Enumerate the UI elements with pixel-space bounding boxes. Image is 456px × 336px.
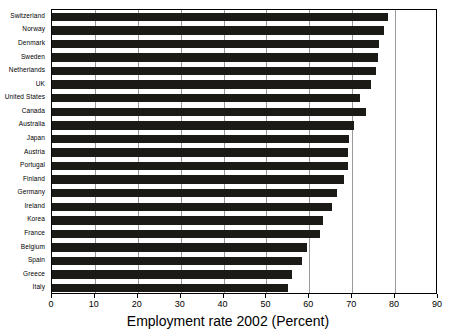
bar-greece — [52, 270, 292, 278]
xtick-label-90: 90 — [422, 299, 452, 310]
bar-row — [52, 67, 436, 75]
bar-row — [52, 94, 436, 102]
category-label-greece: Greece — [23, 270, 45, 278]
xtick-label-50: 50 — [250, 299, 280, 310]
xtick-mark-90 — [437, 294, 438, 298]
bar-denmark — [52, 40, 379, 48]
xtick-label-30: 30 — [165, 299, 195, 310]
bar-united-states — [52, 94, 360, 102]
bar-finland — [52, 175, 344, 183]
bar-australia — [52, 121, 354, 129]
category-label-denmark: Denmark — [18, 39, 45, 47]
xtick-label-40: 40 — [208, 299, 238, 310]
category-label-france: France — [24, 229, 45, 237]
category-label-sweden: Sweden — [21, 53, 45, 61]
category-label-netherlands: Netherlands — [9, 66, 45, 74]
category-label-austria: Austria — [24, 148, 45, 156]
bar-row — [52, 135, 436, 143]
bar-row — [52, 53, 436, 61]
plot-area — [51, 9, 437, 294]
xtick-mark-60 — [308, 294, 309, 298]
bar-ireland — [52, 203, 332, 211]
category-label-germany: Germany — [18, 188, 45, 196]
bar-row — [52, 148, 436, 156]
employment-rate-bar-chart: SwitzerlandNorwayDenmarkSwedenNetherland… — [0, 0, 456, 336]
category-label-portugal: Portugal — [20, 161, 45, 169]
xtick-label-0: 0 — [36, 299, 66, 310]
xtick-mark-80 — [394, 294, 395, 298]
xtick-mark-0 — [51, 294, 52, 298]
category-label-switzerland: Switzerland — [10, 12, 45, 20]
bar-belgium — [52, 243, 307, 251]
category-label-uk: UK — [36, 80, 45, 88]
bar-germany — [52, 189, 337, 197]
bar-switzerland — [52, 13, 388, 21]
bar-sweden — [52, 53, 378, 61]
category-label-australia: Australia — [19, 120, 45, 128]
bar-netherlands — [52, 67, 376, 75]
category-label-korea: Korea — [27, 215, 45, 223]
bar-row — [52, 162, 436, 170]
bar-row — [52, 80, 436, 88]
bar-france — [52, 230, 320, 238]
category-label-belgium: Belgium — [21, 243, 45, 251]
bar-spain — [52, 257, 302, 265]
value-axis-ticks: 0102030405060708090 — [0, 294, 456, 312]
bar-row — [52, 26, 436, 34]
bar-row — [52, 189, 436, 197]
bar-row — [52, 13, 436, 21]
xtick-mark-30 — [180, 294, 181, 298]
bar-norway — [52, 26, 384, 34]
bar-row — [52, 121, 436, 129]
category-label-italy: Italy — [33, 283, 45, 291]
bars-layer — [52, 10, 436, 293]
xtick-mark-10 — [94, 294, 95, 298]
x-axis-title: Employment rate 2002 (Percent) — [0, 312, 456, 330]
bar-italy — [52, 284, 288, 292]
bar-row — [52, 230, 436, 238]
bar-portugal — [52, 162, 348, 170]
bar-austria — [52, 148, 348, 156]
bar-row — [52, 108, 436, 116]
bar-row — [52, 40, 436, 48]
xtick-label-60: 60 — [293, 299, 323, 310]
xtick-mark-20 — [137, 294, 138, 298]
category-label-ireland: Ireland — [24, 202, 45, 210]
xtick-mark-50 — [265, 294, 266, 298]
category-label-canada: Canada — [22, 107, 45, 115]
bar-row — [52, 284, 436, 292]
category-label-spain: Spain — [28, 256, 45, 264]
xtick-label-10: 10 — [79, 299, 109, 310]
category-label-japan: Japan — [27, 134, 45, 142]
bar-row — [52, 257, 436, 265]
bar-row — [52, 203, 436, 211]
category-label-finland: Finland — [23, 175, 45, 183]
bar-row — [52, 216, 436, 224]
bar-row — [52, 243, 436, 251]
bar-row — [52, 175, 436, 183]
category-label-united-states: United States — [5, 93, 45, 101]
bar-uk — [52, 80, 371, 88]
xtick-label-80: 80 — [379, 299, 409, 310]
bar-japan — [52, 135, 349, 143]
xtick-label-20: 20 — [122, 299, 152, 310]
xtick-mark-40 — [223, 294, 224, 298]
bar-row — [52, 270, 436, 278]
bar-korea — [52, 216, 323, 224]
category-axis-labels: SwitzerlandNorwayDenmarkSwedenNetherland… — [0, 9, 48, 294]
xtick-label-70: 70 — [336, 299, 366, 310]
category-label-norway: Norway — [22, 25, 45, 33]
xtick-mark-70 — [351, 294, 352, 298]
bar-canada — [52, 108, 366, 116]
